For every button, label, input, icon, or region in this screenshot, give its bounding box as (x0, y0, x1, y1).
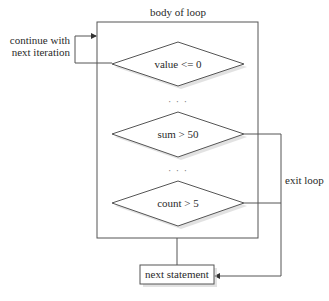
continue-label-line2: next iteration (12, 46, 71, 58)
next-statement-label: next statement (145, 268, 209, 280)
loop-body-label: body of loop (150, 6, 207, 18)
continue-label-line1: continue with (10, 34, 71, 46)
ellipsis-1: · · · (168, 96, 188, 107)
exit-label: exit loop (285, 174, 324, 186)
next-statement: next statement (140, 265, 217, 287)
decision-label: sum > 50 (157, 128, 199, 140)
decision-label: count > 5 (157, 197, 199, 209)
ellipsis-2: · · · (168, 165, 188, 176)
loop-flowchart: body of loop value <= 0 · · · sum > 50 ·… (0, 0, 329, 301)
decision-label: value <= 0 (154, 58, 202, 70)
